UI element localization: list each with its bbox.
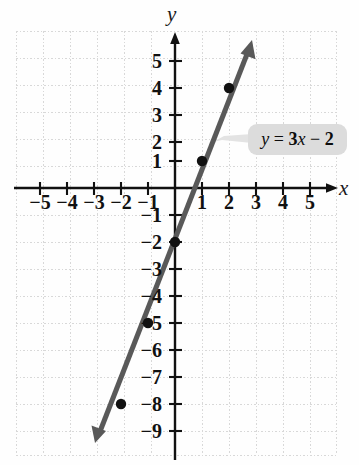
equation-slope: 3 <box>289 129 298 149</box>
x-tick-label: 2 <box>219 192 239 212</box>
equation-callout-label: y = 3x − 2 <box>248 129 347 150</box>
x-axis-label: x <box>339 176 348 201</box>
x-tick-label: −3 <box>79 192 109 212</box>
data-point <box>197 156 207 166</box>
callout-tail <box>213 134 252 143</box>
equation-minus: − <box>310 129 320 149</box>
graph-canvas: y x −5 −4 −3 −2 −1 1 2 3 4 5 5 4 3 2 1 −… <box>0 0 359 465</box>
coordinate-plane-svg <box>0 0 359 465</box>
y-tick-label: −1 <box>126 205 162 225</box>
y-tick-label: −2 <box>126 232 162 252</box>
x-tick-label: −4 <box>52 192 82 212</box>
data-point <box>116 399 126 409</box>
equation-x-var: x <box>298 129 306 149</box>
y-tick-label: 5 <box>140 51 162 71</box>
y-tick-label: −3 <box>126 259 162 279</box>
equation-intercept: 2 <box>325 129 334 149</box>
y-tick-label: 4 <box>140 78 162 98</box>
x-tick-label: 1 <box>192 192 212 212</box>
x-axis-arrow <box>326 183 338 193</box>
y-tick-label: −7 <box>126 367 162 387</box>
line-arrow-up <box>241 40 256 59</box>
data-point <box>170 237 180 247</box>
data-point <box>224 83 234 93</box>
x-tick-label: 4 <box>273 192 293 212</box>
x-tick-label: 3 <box>246 192 266 212</box>
y-tick-label: 3 <box>140 105 162 125</box>
x-tick-label: −5 <box>25 192 55 212</box>
y-tick-label: −4 <box>126 286 162 306</box>
y-axis-arrow <box>170 32 180 44</box>
y-tick-label: −5 <box>126 313 162 333</box>
equation-equals: = <box>274 129 284 149</box>
y-tick-label: −9 <box>126 421 162 441</box>
y-tick-label: 1 <box>140 151 162 171</box>
x-tick-label: 5 <box>300 192 320 212</box>
y-tick-label: −8 <box>126 394 162 414</box>
y-axis-label: y <box>167 2 176 27</box>
y-tick-label: 2 <box>140 132 162 152</box>
y-tick-label: −6 <box>126 340 162 360</box>
